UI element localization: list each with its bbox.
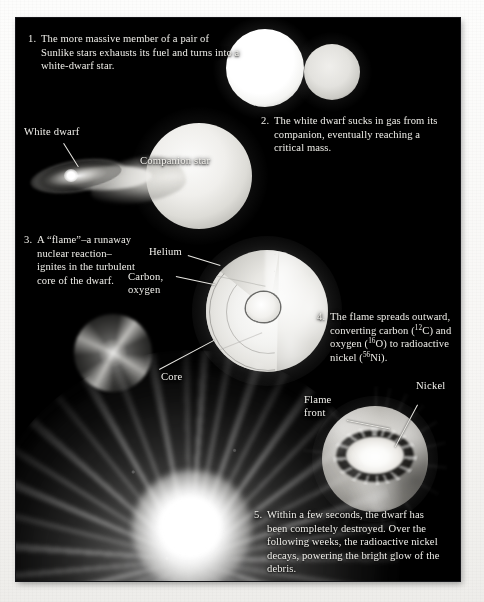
dwarf-core-region (246, 292, 280, 322)
caption-step-2: 2. The white dwarf sucks in gas from its… (261, 114, 453, 155)
white-dwarf-point (64, 169, 78, 182)
label-helium: Helium (149, 246, 182, 259)
caption-step-4-number: 4. (317, 310, 325, 324)
label-flame-front: Flame front (304, 394, 331, 420)
label-nickel: Nickel (416, 380, 445, 393)
label-white-dwarf: White dwarf (24, 126, 79, 139)
figure-page: 1. The more massive member of a pair of … (0, 0, 484, 602)
caption-step-1-text: The more massive member of a pair of Sun… (28, 32, 244, 73)
caption-step-4-part-4: Ni). (370, 352, 387, 363)
caption-step-3: 3. A “flame”–a runaway nuclear reaction–… (24, 233, 136, 287)
oxygen-mass-number: 16 (368, 338, 375, 346)
caption-step-1: 1. The more massive member of a pair of … (28, 32, 244, 73)
caption-step-5-text: Within a few seconds, the dwarf has been… (254, 508, 440, 576)
caption-step-4-text: The flame spreads outward, converting ca… (317, 310, 457, 364)
caption-step-2-text: The white dwarf sucks in gas from its co… (261, 114, 453, 155)
caption-step-5-number: 5. (254, 508, 262, 522)
caption-step-3-number: 3. (24, 233, 32, 247)
caption-step-2-number: 2. (261, 114, 269, 128)
caption-step-1-number: 1. (28, 32, 36, 46)
label-core: Core (161, 371, 182, 384)
caption-step-4: 4. The flame spreads outward, converting… (317, 310, 457, 364)
label-companion-star: Companion star (140, 155, 210, 168)
secondary-sunlike-star (304, 44, 360, 100)
label-carbon-oxygen: Carbon, oxygen (128, 271, 163, 297)
caption-step-3-text: A “flame”–a runaway nuclear reaction–ign… (24, 233, 136, 287)
illustration-panel: 1. The more massive member of a pair of … (16, 18, 460, 581)
caption-step-5: 5. Within a few seconds, the dwarf has b… (254, 508, 440, 576)
